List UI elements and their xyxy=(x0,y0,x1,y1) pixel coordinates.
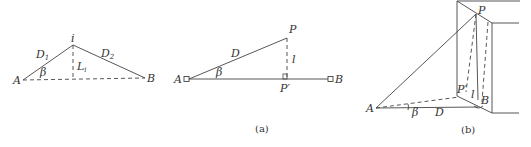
beta-label: β xyxy=(411,106,418,119)
point-P-label: P xyxy=(477,4,486,17)
point-P-prime-label: P′ xyxy=(279,82,290,95)
point-P-prime-label: P′ xyxy=(456,83,467,96)
vertical-P-B xyxy=(476,14,478,100)
plane-top-diagonal xyxy=(457,1,492,23)
beta-label: β xyxy=(39,66,46,79)
station-A-marker xyxy=(184,77,189,82)
right-angle-marker xyxy=(283,74,287,79)
dashed-P-to-P-prime xyxy=(466,14,476,92)
figure-b: A P P′ l B β D (b) xyxy=(365,1,520,135)
figure-left: A i B D1 D2 β Li xyxy=(12,32,155,87)
D-label: D xyxy=(434,106,444,119)
l-label: l xyxy=(292,53,296,66)
caption-b: (b) xyxy=(461,124,475,135)
figure-a: A B P P′ D β l (a) xyxy=(173,23,343,134)
beta-label: β xyxy=(215,66,222,79)
point-B-label: B xyxy=(146,72,155,85)
station-B-marker xyxy=(328,77,333,82)
L-label: Li xyxy=(76,60,87,74)
caption-a: (a) xyxy=(255,123,269,134)
point-P-label: P xyxy=(288,23,297,36)
point-B-label: B xyxy=(334,73,343,86)
D1-label: D1 xyxy=(35,48,49,62)
D2-label: D2 xyxy=(100,47,115,61)
point-A-label: A xyxy=(365,102,374,115)
angle-arc-beta xyxy=(408,104,409,110)
point-i-label: i xyxy=(71,32,75,45)
dashed-plane-line xyxy=(482,22,488,102)
point-A-label: A xyxy=(173,73,182,86)
point-A-label: A xyxy=(12,74,21,87)
l-label: l xyxy=(471,88,475,101)
point-B-label: B xyxy=(480,94,489,107)
ground-A-B xyxy=(376,107,478,108)
diagram-canvas: A i B D1 D2 β Li A B P P′ D β l (a) xyxy=(0,0,531,147)
edge-A-i xyxy=(23,45,73,80)
D-label: D xyxy=(230,47,240,60)
